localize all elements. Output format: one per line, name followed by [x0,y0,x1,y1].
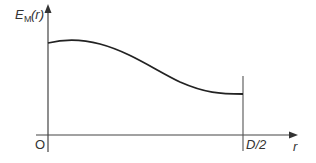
y-axis-arrow-icon [45,4,52,13]
y-axis-label: E [15,7,24,22]
origin-label: O [35,137,45,152]
x-tick-label-d2: D/2 [246,137,267,152]
y-axis-label-main: E [15,7,24,22]
y-axis-label-arg: (r) [31,7,44,22]
figure-canvas: E M (r) O D/2 r [0,0,316,163]
x-axis-arrow-icon [289,132,298,139]
em-curve [48,40,243,94]
x-axis-label: r [293,139,298,154]
